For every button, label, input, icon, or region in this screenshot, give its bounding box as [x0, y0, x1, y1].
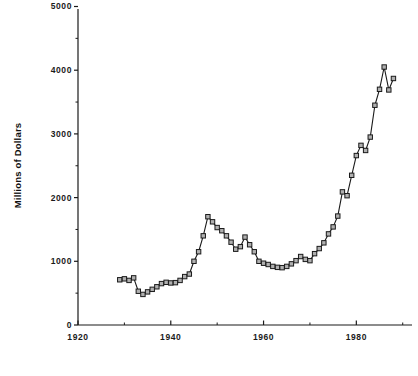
- data-point-marker: [220, 229, 224, 233]
- data-point-marker: [363, 148, 367, 152]
- data-point-marker: [340, 190, 344, 194]
- data-point-marker: [377, 87, 381, 91]
- data-point-marker: [261, 261, 265, 265]
- data-point-marker: [359, 143, 363, 147]
- data-point-marker: [266, 262, 270, 266]
- data-point-marker: [224, 234, 228, 238]
- data-point-marker: [136, 289, 140, 293]
- data-point-marker: [247, 243, 251, 247]
- data-point-marker: [159, 281, 163, 285]
- data-point-marker: [229, 240, 233, 244]
- y-tick-label: 5000: [30, 1, 72, 11]
- data-point-marker: [382, 65, 386, 69]
- data-point-marker: [331, 225, 335, 229]
- data-point-marker: [280, 265, 284, 269]
- data-point-marker: [187, 272, 191, 276]
- data-point-marker: [289, 262, 293, 266]
- data-point-marker: [336, 214, 340, 218]
- data-point-marker: [294, 258, 298, 262]
- data-point-marker: [257, 259, 261, 263]
- y-tick-label: 1000: [30, 256, 72, 266]
- x-tick-label: 1940: [146, 332, 196, 342]
- data-point-marker: [164, 280, 168, 284]
- data-point-marker: [178, 278, 182, 282]
- data-point-marker: [387, 88, 391, 92]
- data-point-marker: [373, 103, 377, 107]
- data-point-marker: [285, 264, 289, 268]
- x-axis-ticks: [78, 321, 403, 326]
- y-tick-label: 0: [30, 320, 72, 330]
- y-tick-label: 4000: [30, 65, 72, 75]
- data-point-marker: [368, 135, 372, 139]
- x-tick-label: 1920: [53, 332, 103, 342]
- data-point-marker: [238, 244, 242, 248]
- data-point-marker: [173, 280, 177, 284]
- data-point-marker: [122, 277, 126, 281]
- x-tick-label: 1980: [331, 332, 381, 342]
- data-point-marker: [215, 225, 219, 229]
- data-point-marker: [141, 292, 145, 296]
- x-tick-label: 1960: [239, 332, 289, 342]
- y-axis-title: Millions of Dollars: [12, 101, 23, 231]
- data-point-marker: [169, 281, 173, 285]
- chart-container: Millions of Dollars 01000200030004000500…: [0, 0, 418, 376]
- data-point-marker: [349, 173, 353, 177]
- data-point-marker: [150, 287, 154, 291]
- data-point-marker: [206, 215, 210, 219]
- data-point-marker: [317, 246, 321, 250]
- data-point-marker: [201, 234, 205, 238]
- data-point-marker: [345, 193, 349, 197]
- data-point-marker: [252, 250, 256, 254]
- data-point-marker: [196, 250, 200, 254]
- data-series-markers: [118, 65, 396, 297]
- data-point-marker: [275, 265, 279, 269]
- data-point-marker: [391, 76, 395, 80]
- data-point-marker: [354, 153, 358, 157]
- y-tick-label: 2000: [30, 193, 72, 203]
- data-point-marker: [326, 232, 330, 236]
- data-point-marker: [298, 254, 302, 258]
- data-point-marker: [182, 274, 186, 278]
- axis-lines: [78, 9, 412, 325]
- data-point-marker: [303, 257, 307, 261]
- data-point-marker: [308, 258, 312, 262]
- data-point-marker: [127, 278, 131, 282]
- data-point-marker: [145, 290, 149, 294]
- data-point-marker: [131, 276, 135, 280]
- y-tick-label: 3000: [30, 129, 72, 139]
- data-point-marker: [155, 285, 159, 289]
- data-point-marker: [271, 264, 275, 268]
- data-point-marker: [118, 278, 122, 282]
- data-point-marker: [322, 241, 326, 245]
- data-point-marker: [312, 251, 316, 255]
- data-point-marker: [234, 247, 238, 251]
- data-point-marker: [210, 220, 214, 224]
- data-point-marker: [243, 235, 247, 239]
- data-point-marker: [192, 259, 196, 263]
